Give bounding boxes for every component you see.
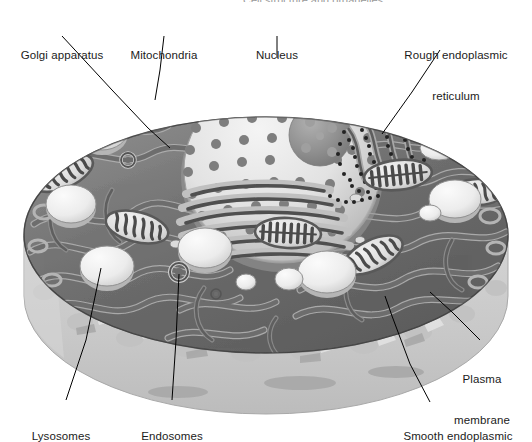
label-mitochondria: Mitochondria: [104, 22, 224, 90]
label-smooth-endoplasmic-reticulum: Smooth endoplasmic reticulum: [384, 403, 532, 442]
vesicle: [275, 268, 303, 290]
label-rough-er-line-1: Rough endoplasmic: [386, 49, 526, 63]
vesicle: [420, 136, 458, 160]
label-lysosomes-line-1: Lysosomes: [6, 430, 116, 442]
cell-diagram-figure: Cell structure and organelles: [0, 0, 532, 442]
lysosome: [80, 246, 134, 291]
label-endosomes: Endosomes: [114, 403, 230, 442]
label-endosomes-line-1: Endosomes: [114, 430, 230, 442]
vesicle: [236, 274, 256, 290]
label-smooth-er-line-1: Smooth endoplasmic: [384, 430, 532, 442]
label-nucleus: Nucleus: [225, 22, 329, 90]
label-plasma-membrane-line-1: Plasma: [434, 373, 530, 387]
label-mitochondria-line-1: Mitochondria: [104, 49, 224, 63]
lysosome: [46, 185, 96, 228]
endosome: [450, 135, 462, 147]
label-rough-endoplasmic-reticulum: Rough endoplasmic reticulum: [386, 22, 526, 130]
label-nucleus-line-1: Nucleus: [225, 49, 329, 63]
label-lysosomes: Lysosomes: [6, 403, 116, 442]
nucleolus: [289, 104, 351, 166]
label-rough-er-line-2: reticulum: [386, 90, 526, 104]
vesicle: [298, 251, 356, 298]
vesicle: [419, 205, 441, 221]
